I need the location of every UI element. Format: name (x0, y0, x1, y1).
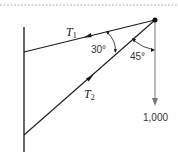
angle-30-label: 30° (91, 44, 106, 55)
joint-node (153, 18, 158, 23)
t1-arrow-icon (84, 33, 92, 38)
force-diagram: T1 T2 30° 45° 1,000 (0, 0, 178, 156)
load-label: 1,000 (143, 112, 168, 123)
load-arrow-icon (152, 98, 158, 106)
angle-45-label: 45° (130, 51, 145, 62)
t2-label: T2 (84, 87, 95, 102)
angle-arc-45-arrow-icon (151, 48, 155, 52)
angle-arc-45 (133, 40, 154, 50)
angle-arc-30-arrow-icon (114, 49, 117, 53)
t1-label: T1 (66, 25, 77, 40)
t2-arrow-icon (86, 75, 94, 82)
